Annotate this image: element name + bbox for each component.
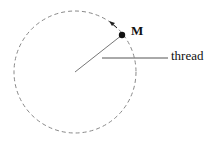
thread-line bbox=[75, 35, 122, 72]
mass-point bbox=[119, 32, 125, 38]
circular-motion-diagram bbox=[0, 0, 215, 143]
thread-label: thread bbox=[171, 48, 203, 64]
mass-label: M bbox=[131, 23, 143, 39]
